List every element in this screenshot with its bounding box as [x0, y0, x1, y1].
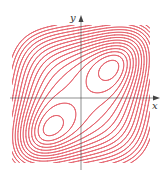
- x-axis-label: x: [152, 101, 158, 111]
- y-axis-arrow-icon: [79, 15, 84, 22]
- axes: [10, 15, 160, 170]
- y-axis-label: y: [70, 13, 76, 23]
- contour-plot: [0, 0, 165, 179]
